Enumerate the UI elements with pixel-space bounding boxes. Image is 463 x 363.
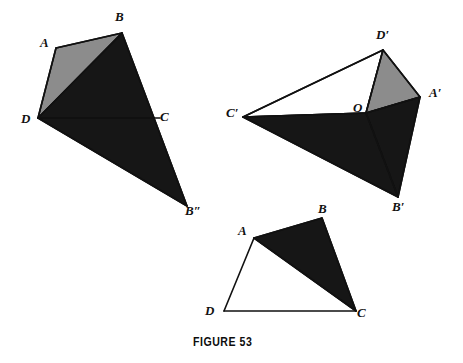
right-figure-vertex-label-D-prime: D′ xyxy=(376,28,389,41)
figure-caption: FIGURE 53 xyxy=(193,335,252,349)
left-figure-vertex-label-B-double-prime: B″ xyxy=(185,204,201,217)
right-figure-vertex-label-C-prime: C′ xyxy=(226,106,238,119)
bottom-figure-vertex-label-D: D xyxy=(205,304,214,317)
bottom-figure-vertex-label-A: A xyxy=(238,224,247,237)
figure-geometry xyxy=(38,33,420,311)
right-figure xyxy=(243,50,420,197)
left-figure-vertex-label-C: C xyxy=(160,110,169,123)
left-figure-vertex-label-D: D xyxy=(21,112,30,125)
right-figure-vertex-label-B-prime: B′ xyxy=(392,200,404,213)
face-ABC-dark xyxy=(254,218,356,311)
figure-illustration xyxy=(0,0,463,363)
right-figure-vertex-label-O: O xyxy=(353,101,362,114)
right-figure-vertex-label-A-prime: A′ xyxy=(429,86,441,99)
left-figure-vertex-label-A: A xyxy=(40,36,49,49)
bottom-figure-vertex-label-C: C xyxy=(357,306,366,319)
figure-page: ABCDB″D′A′OC′B′ABCD FIGURE 53 xyxy=(0,0,463,363)
left-figure-vertex-label-B: B xyxy=(115,10,124,23)
bottom-figure-vertex-label-B: B xyxy=(318,202,327,215)
edge-A-D xyxy=(224,238,254,311)
